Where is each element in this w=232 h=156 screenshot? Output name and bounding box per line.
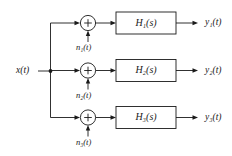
summing-junction-1 [80, 15, 95, 30]
summing-junction-2 [80, 63, 95, 78]
branch-3-feed [51, 115, 81, 119]
noise-label-1: n₁(t) [76, 43, 91, 52]
block-diagram: x(t) n₁(t) n₂(t) n₃(t) H₁(s) H₂(s) H₃(s)… [0, 0, 232, 156]
transfer-function-label-1: H₁(s) [116, 18, 176, 28]
block-2-to-output-wire-group [176, 68, 198, 72]
output-label-3: y₃(t) [205, 113, 222, 123]
noise-1-wire-group [86, 31, 90, 42]
sum-1-to-block-wire-group [96, 21, 116, 25]
noise-2-wire-group [86, 78, 90, 89]
output-label-1: y₁(t) [205, 18, 222, 28]
sum-2-to-block-wire-group [96, 68, 116, 72]
noise-1-arrowhead [86, 31, 90, 36]
block-2-output-arrowhead [193, 68, 199, 72]
block-1-to-output-wire-group [176, 21, 198, 25]
output-label-2: y₂(t) [205, 66, 222, 76]
noise-2-arrowhead [86, 78, 90, 84]
block-1-output-arrowhead [193, 21, 199, 25]
block-3-output-arrowhead [193, 115, 199, 119]
branch-3-feed-arrowhead [75, 115, 81, 119]
branch-1-feed-arrowhead [75, 21, 81, 25]
branch-1-feed [51, 21, 81, 25]
noise-3-wire-group [86, 125, 90, 136]
transfer-function-label-3: H₃(s) [116, 112, 176, 122]
summing-junction-3 [80, 110, 95, 125]
noise-label-3: n₃(t) [76, 138, 91, 147]
branch-2-feed-arrowhead [75, 68, 81, 72]
noise-3-arrowhead [86, 125, 90, 131]
block-3-to-output-wire-group [176, 115, 198, 119]
transfer-function-label-2: H₂(s) [116, 65, 176, 75]
sum-3-to-block-wire-group [96, 115, 116, 119]
input-label: x(t) [16, 66, 29, 76]
noise-label-2: n₂(t) [76, 91, 91, 100]
branch-2-feed [51, 68, 81, 72]
